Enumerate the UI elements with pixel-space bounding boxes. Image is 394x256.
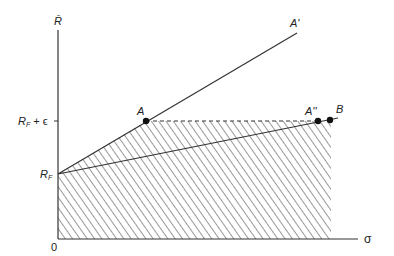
point-label-A-prime: A'	[289, 17, 300, 29]
point-label-A: A	[136, 105, 144, 117]
point-A	[143, 118, 149, 124]
point-B	[327, 117, 333, 123]
y-tick-label-rf: RF	[40, 168, 53, 181]
hatched-region	[58, 121, 331, 239]
y-axis-label: R̄	[54, 15, 62, 27]
risk-return-diagram: R̄ σ 0 RF+ ϵ RF A A' A'' B	[0, 0, 394, 256]
point-A-double-prime	[315, 118, 321, 124]
point-label-A-double-prime: A''	[304, 105, 317, 117]
origin-label: 0	[51, 241, 57, 253]
x-axis-label: σ	[364, 232, 372, 246]
point-label-B: B	[336, 103, 343, 115]
y-tick-label-rf-eps: RF+ ϵ	[18, 115, 48, 128]
